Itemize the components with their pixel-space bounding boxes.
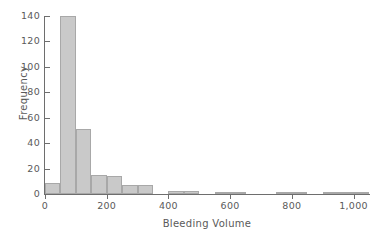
x-axis-title: Bleeding Volume (45, 219, 369, 229)
y-tick-label: 0 (0, 189, 40, 199)
histogram-bar (122, 185, 137, 194)
x-tick-label: 1,000 (331, 201, 377, 211)
histogram-bar (168, 191, 183, 194)
x-tick-label: 0 (22, 201, 68, 211)
x-axis-line (44, 194, 370, 195)
histogram-bar (91, 175, 106, 194)
x-tick-mark (292, 194, 293, 199)
x-tick-label: 800 (269, 201, 315, 211)
histogram-bar (338, 192, 353, 194)
y-tick-label: 140 (0, 11, 40, 21)
histogram-chart: Frequency Bleeding Volume 02040608010012… (0, 0, 380, 240)
histogram-bar (76, 129, 91, 194)
histogram-bar (276, 192, 291, 194)
x-tick-mark (354, 194, 355, 199)
histogram-bar (323, 192, 338, 194)
y-tick-label: 100 (0, 62, 40, 72)
y-tick-label: 80 (0, 87, 40, 97)
histogram-bar (45, 183, 60, 194)
histogram-bar (292, 192, 307, 194)
x-tick-label: 600 (207, 201, 253, 211)
histogram-bar (138, 185, 153, 194)
y-tick-label: 20 (0, 164, 40, 174)
x-tick-label: 400 (145, 201, 191, 211)
y-tick-label: 120 (0, 36, 40, 46)
y-tick-label: 60 (0, 113, 40, 123)
x-tick-mark (168, 194, 169, 199)
histogram-bar (215, 192, 230, 194)
x-tick-mark (45, 194, 46, 199)
plot-area (45, 16, 369, 194)
histogram-bar (230, 192, 245, 194)
x-tick-mark (230, 194, 231, 199)
histogram-bar (107, 176, 122, 194)
x-tick-label: 200 (84, 201, 130, 211)
x-tick-mark (107, 194, 108, 199)
y-tick-label: 40 (0, 138, 40, 148)
histogram-bar (60, 16, 75, 194)
histogram-bar (354, 192, 369, 194)
histogram-bar (184, 191, 199, 194)
